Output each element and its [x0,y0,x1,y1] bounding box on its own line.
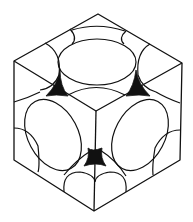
top-back-corner-arc-right [121,31,126,44]
cube-outline [14,14,182,211]
fcc-unit-cell-diagram [0,0,193,222]
top-back-corner-arc-left [70,29,75,44]
top-face-front-edges [14,61,182,111]
top-front-corner-arc [68,88,125,96]
cube-hexagon-outline [14,14,182,211]
right-corner-arc [156,92,180,103]
top-back-corner-arc [72,26,125,31]
top-face-center-atom [58,39,136,85]
bottom-void [84,148,106,166]
